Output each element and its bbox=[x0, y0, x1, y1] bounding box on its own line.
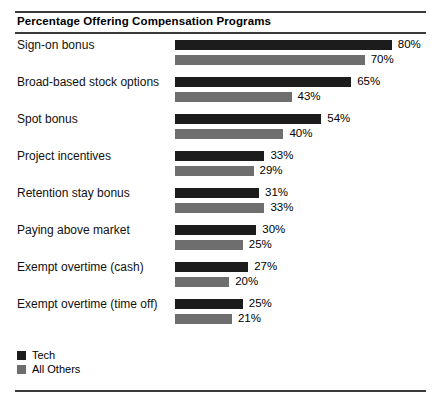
chart-container: Percentage Offering Compensation Program… bbox=[0, 0, 439, 401]
bar-value-label: 33% bbox=[270, 149, 293, 162]
bar-tech bbox=[175, 151, 264, 161]
bar-value-label: 43% bbox=[298, 90, 321, 103]
bar-group: Exempt overtime (cash)27%20% bbox=[0, 260, 439, 297]
category-label: Spot bonus bbox=[17, 112, 78, 126]
bar-tech bbox=[175, 225, 256, 235]
bar-all-others bbox=[175, 166, 254, 176]
chart-title: Percentage Offering Compensation Program… bbox=[17, 15, 271, 27]
bar-value-label: 20% bbox=[235, 275, 258, 288]
category-label: Exempt overtime (time off) bbox=[17, 297, 157, 311]
category-label: Project incentives bbox=[17, 149, 111, 163]
bar-value-label: 30% bbox=[262, 223, 285, 236]
legend-label: Tech bbox=[32, 349, 55, 362]
bar-all-others bbox=[175, 55, 365, 65]
bar-all-others bbox=[175, 92, 292, 102]
bar-group: Retention stay bonus31%33% bbox=[0, 186, 439, 223]
category-label: Sign-on bonus bbox=[17, 38, 94, 52]
bar-group: Project incentives33%29% bbox=[0, 149, 439, 186]
category-label: Exempt overtime (cash) bbox=[17, 260, 144, 274]
legend-item: All Others bbox=[17, 362, 80, 376]
bar-tech bbox=[175, 40, 392, 50]
bar-group: Broad-based stock options65%43% bbox=[0, 75, 439, 112]
category-label: Paying above market bbox=[17, 223, 130, 237]
bar-value-label: 27% bbox=[254, 260, 277, 273]
bar-tech bbox=[175, 188, 259, 198]
bar-tech bbox=[175, 114, 321, 124]
category-label: Retention stay bonus bbox=[17, 186, 130, 200]
bar-value-label: 25% bbox=[249, 297, 272, 310]
legend-label: All Others bbox=[32, 363, 80, 376]
bar-tech bbox=[175, 299, 243, 309]
bar-value-label: 29% bbox=[260, 164, 283, 177]
title-divider bbox=[15, 32, 426, 34]
bar-value-label: 65% bbox=[357, 75, 380, 88]
bar-value-label: 25% bbox=[249, 238, 272, 251]
bar-all-others bbox=[175, 314, 232, 324]
bar-group: Paying above market30%25% bbox=[0, 223, 439, 260]
legend-swatch-icon bbox=[17, 365, 26, 374]
bar-value-label: 31% bbox=[265, 186, 288, 199]
bar-group: Spot bonus54%40% bbox=[0, 112, 439, 149]
category-label: Broad-based stock options bbox=[17, 75, 159, 89]
legend-item: Tech bbox=[17, 348, 80, 362]
bar-value-label: 70% bbox=[371, 53, 394, 66]
bar-tech bbox=[175, 262, 248, 272]
bar-tech bbox=[175, 77, 351, 87]
bottom-divider bbox=[15, 390, 426, 392]
bar-all-others bbox=[175, 240, 243, 250]
top-divider bbox=[15, 11, 426, 13]
bar-chart-plot: Sign-on bonus80%70%Broad-based stock opt… bbox=[0, 38, 439, 334]
bar-value-label: 80% bbox=[398, 38, 421, 51]
bar-group: Sign-on bonus80%70% bbox=[0, 38, 439, 75]
bar-all-others bbox=[175, 203, 264, 213]
chart-legend: TechAll Others bbox=[17, 348, 80, 376]
bar-all-others bbox=[175, 277, 229, 287]
bar-value-label: 54% bbox=[327, 112, 350, 125]
legend-swatch-icon bbox=[17, 351, 26, 360]
bar-all-others bbox=[175, 129, 283, 139]
bar-value-label: 33% bbox=[270, 201, 293, 214]
bar-value-label: 40% bbox=[289, 127, 312, 140]
bar-group: Exempt overtime (time off)25%21% bbox=[0, 297, 439, 334]
bar-value-label: 21% bbox=[238, 312, 261, 325]
